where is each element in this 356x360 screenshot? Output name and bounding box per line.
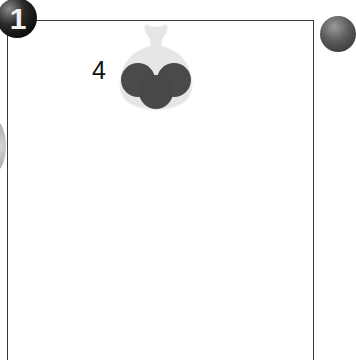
partial-next-badge bbox=[320, 16, 356, 52]
badge-number: 1 bbox=[10, 2, 27, 36]
partial-left-badge bbox=[0, 118, 6, 174]
item-count: 4 bbox=[92, 58, 106, 83]
sack-of-balls-icon bbox=[116, 22, 196, 112]
